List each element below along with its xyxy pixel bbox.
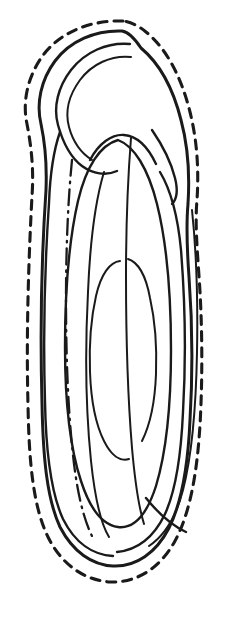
figure-background (0, 0, 228, 628)
figure-canvas: Longitudinal section line drawing of an … (0, 0, 228, 628)
line-drawing-svg: Longitudinal section line drawing of an … (0, 0, 228, 628)
